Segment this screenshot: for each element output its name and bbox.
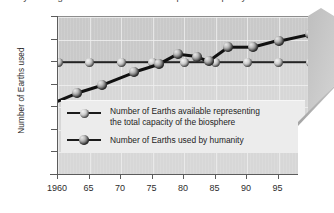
data-point-marker bbox=[129, 67, 139, 77]
legend-label-capacity: Number of Earths available representing … bbox=[110, 106, 260, 127]
y-tick-label: 0.00 bbox=[288, 168, 334, 178]
y-tick bbox=[51, 84, 57, 85]
chart-figure: by which global demand exceeds the plane… bbox=[0, 0, 334, 213]
x-tick bbox=[246, 175, 247, 179]
legend-swatch-capacity bbox=[67, 112, 101, 114]
y-tick-label: 1.20 bbox=[288, 33, 334, 43]
data-point-marker bbox=[274, 36, 284, 46]
sphere-dark-icon bbox=[79, 135, 89, 145]
data-point-marker bbox=[173, 49, 183, 59]
y-axis-line bbox=[57, 16, 58, 175]
data-point-marker bbox=[117, 58, 126, 67]
legend-item-used: Number of Earths used by humanity bbox=[67, 135, 244, 146]
y-tick bbox=[51, 106, 57, 107]
x-tick bbox=[309, 175, 310, 179]
x-tick bbox=[183, 175, 184, 179]
chart-legend: Number of Earths available representing … bbox=[61, 100, 305, 153]
data-point-marker bbox=[192, 52, 202, 62]
data-point-marker bbox=[180, 58, 189, 67]
x-tick bbox=[278, 175, 279, 179]
x-tick bbox=[120, 175, 121, 179]
sphere-light-icon bbox=[80, 109, 89, 118]
data-point-marker bbox=[85, 58, 94, 67]
clipped-title-text: by which global demand exceeds the plane… bbox=[18, 0, 246, 2]
y-tick bbox=[51, 16, 57, 17]
y-tick bbox=[51, 129, 57, 130]
y-tick bbox=[51, 39, 57, 40]
x-tick bbox=[89, 175, 90, 179]
x-tick bbox=[152, 175, 153, 179]
legend-label-capacity-line1: Number of Earths available representing bbox=[110, 106, 260, 117]
legend-swatch-used bbox=[67, 139, 101, 141]
gridline-v bbox=[58, 17, 59, 175]
y-tick-label: 0.80 bbox=[288, 78, 334, 88]
y-tick bbox=[51, 61, 57, 62]
clipped-title: by which global demand exceeds the plane… bbox=[0, 0, 334, 9]
data-point-marker bbox=[72, 88, 82, 98]
x-tick bbox=[215, 175, 216, 179]
y-tick-label: 1.40 bbox=[288, 10, 334, 20]
legend-item-capacity: Number of Earths available representing … bbox=[67, 106, 260, 127]
x-tick-label: 2000 bbox=[289, 183, 329, 193]
y-tick-label: 1.00 bbox=[288, 55, 334, 65]
data-point-marker bbox=[243, 58, 252, 67]
legend-label-capacity-line2: the total capacity of the biosphere bbox=[110, 117, 260, 128]
x-tick bbox=[57, 175, 58, 179]
y-tick bbox=[51, 151, 57, 152]
data-point-marker bbox=[97, 80, 107, 90]
y-axis-title: Number of Earths used bbox=[17, 31, 26, 151]
data-point-marker bbox=[274, 58, 283, 67]
legend-label-used: Number of Earths used by humanity bbox=[110, 135, 244, 146]
